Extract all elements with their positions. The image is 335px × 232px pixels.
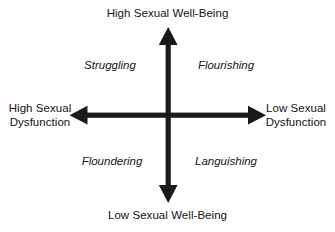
axis-label-right: Low Sexual Dysfunction (259, 102, 333, 129)
arrowhead-down-icon (159, 185, 178, 203)
quadrant-label-bottom-left: Floundering (58, 155, 166, 168)
axis-label-top: High Sexual Well-Being (0, 7, 335, 21)
quadrant-label-top-left: Struggling (60, 59, 160, 72)
quadrant-diagram: High Sexual Well-Being Low Sexual Well-B… (0, 0, 335, 232)
axis-label-bottom: Low Sexual Well-Being (0, 209, 335, 223)
quadrant-label-bottom-right: Languishing (172, 155, 280, 168)
quadrant-label-top-right: Flourishing (176, 59, 276, 72)
axis-label-left: High Sexual Dysfunction (4, 102, 76, 129)
arrowhead-up-icon (159, 27, 178, 45)
